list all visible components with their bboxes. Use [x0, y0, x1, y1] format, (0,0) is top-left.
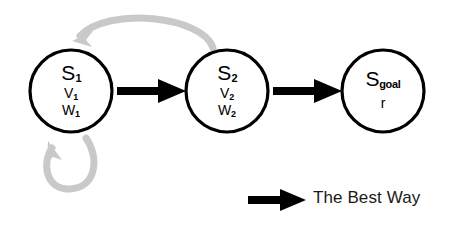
node-symbol-sgoal: Sgoal	[343, 68, 423, 89]
edge-s1-self-loop	[47, 138, 94, 189]
legend-arrow-icon	[248, 189, 306, 211]
node-line-s2-v: V2	[187, 86, 267, 100]
node-label-s2: S2 V2 W2	[187, 62, 267, 117]
node-symbol-s1: S1	[31, 62, 111, 83]
diagram-canvas: S1 V1 W1 S2 V2 W2 Sgoal r The Best Way	[0, 0, 449, 225]
edge-s1-to-s2	[117, 79, 186, 103]
node-label-s1: S1 V1 W1	[31, 62, 111, 117]
legend-label: The Best Way	[313, 188, 420, 208]
node-symbol-s2: S2	[187, 62, 267, 83]
node-label-sgoal: Sgoal r	[343, 68, 423, 110]
node-line-sgoal-r: r	[343, 96, 423, 110]
edge-s2-back-to-s1	[72, 18, 213, 48]
edge-s2-to-sgoal	[273, 79, 342, 103]
node-line-s2-w: W2	[187, 103, 267, 117]
node-line-s1-w: W1	[31, 103, 111, 117]
node-line-s1-v: V1	[31, 86, 111, 100]
